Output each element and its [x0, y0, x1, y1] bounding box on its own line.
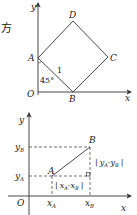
figure-2-distance-diagram: y x O A B yB yA xA xB |xA-xB| |yA-yB|: [8, 113, 131, 215]
fig1-origin-label: O: [27, 89, 35, 99]
fig2-x-label: x: [121, 203, 126, 213]
horizontal-distance-label: |xA-xB|: [55, 181, 83, 191]
figure-1-square-on-axes: y x O A B C D 45° 1: [27, 2, 131, 104]
point-D-label: D: [68, 10, 76, 20]
vertical-distance-label: |yA-yB|: [95, 158, 123, 168]
fig2-point-A-label: A: [47, 166, 55, 176]
point-C-label: C: [110, 53, 117, 63]
fragment-text: 方: [1, 21, 12, 35]
point-B-label: B: [68, 94, 76, 104]
fig1-y-label: y: [30, 2, 37, 12]
fig2-point-B-label: B: [88, 135, 96, 145]
xB-tick-label: xB: [85, 198, 94, 209]
angle-arc: [38, 62, 42, 64]
side-length-label: 1: [57, 66, 62, 75]
xA-tick-label: xA: [47, 198, 56, 209]
segment-AB: [52, 147, 90, 176]
angle-45-label: 45°: [40, 76, 54, 85]
yB-tick-label: yB: [14, 142, 24, 153]
figure-canvas: 方 y x O A B C D 45° 1 y x O A B yB yA xA: [0, 0, 137, 215]
point-A-label: A: [27, 53, 35, 63]
fig2-y-label: y: [18, 115, 25, 125]
right-angle-marker: [87, 173, 91, 177]
fig1-x-label: x: [125, 93, 130, 103]
fig2-origin-label: O: [17, 198, 25, 208]
yA-tick-label: yA: [14, 171, 24, 182]
